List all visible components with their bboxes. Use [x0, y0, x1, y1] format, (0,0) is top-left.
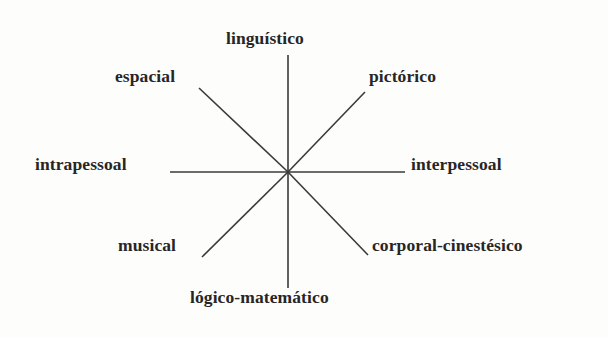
spoke-line-corporal-cinestesico [288, 172, 368, 255]
axis-label-corporal-cinestesico: corporal-cinestésico [372, 237, 523, 255]
multiple-intelligences-diagram: linguístico espacial pictórico intrapess… [0, 0, 608, 337]
spoke-line-musical [202, 172, 288, 257]
axis-label-linguistico: linguístico [226, 30, 304, 48]
axis-label-pictorico: pictórico [369, 68, 436, 86]
axis-label-espacial: espacial [115, 68, 175, 86]
spoke-line-pictorico [288, 92, 365, 172]
spoke-line-espacial [199, 88, 288, 172]
axis-label-logico-matematico: lógico-matemático [190, 289, 329, 307]
axis-label-interpessoal: interpessoal [411, 156, 502, 174]
axis-label-intrapessoal: intrapessoal [35, 156, 127, 174]
axis-label-musical: musical [118, 237, 176, 255]
